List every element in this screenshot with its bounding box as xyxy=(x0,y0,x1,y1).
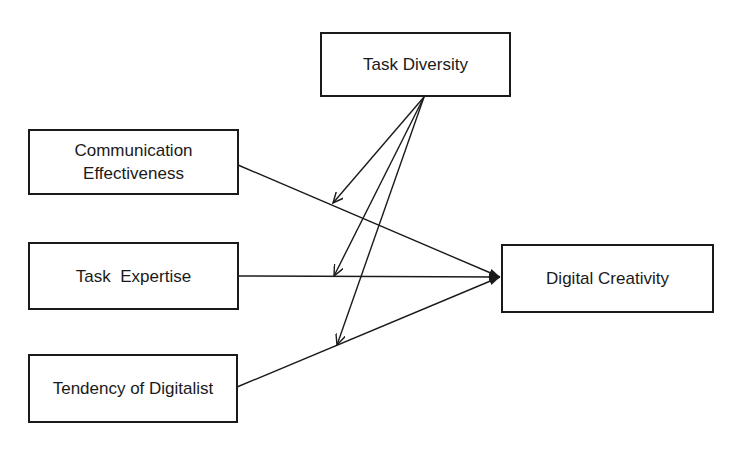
node-digital-creativity: Digital Creativity xyxy=(501,244,714,313)
node-label: Task Expertise xyxy=(76,265,191,288)
node-communication-effectiveness: Communication Effectiveness xyxy=(28,129,239,195)
node-task-diversity: Task Diversity xyxy=(320,32,511,97)
edge-communication-to-creativity xyxy=(238,165,500,277)
node-label: Communication Effectiveness xyxy=(74,139,192,185)
edge-digitalist-to-creativity xyxy=(237,277,500,387)
node-label: Task Diversity xyxy=(363,53,468,76)
node-label: Tendency of Digitalist xyxy=(53,377,214,400)
edge-expertise-to-creativity xyxy=(238,276,500,277)
moderation-edge-digitalist xyxy=(337,97,424,345)
node-label: Digital Creativity xyxy=(546,267,669,290)
node-tendency-of-digitalist: Tendency of Digitalist xyxy=(28,354,238,423)
node-task-expertise: Task Expertise xyxy=(28,242,239,310)
